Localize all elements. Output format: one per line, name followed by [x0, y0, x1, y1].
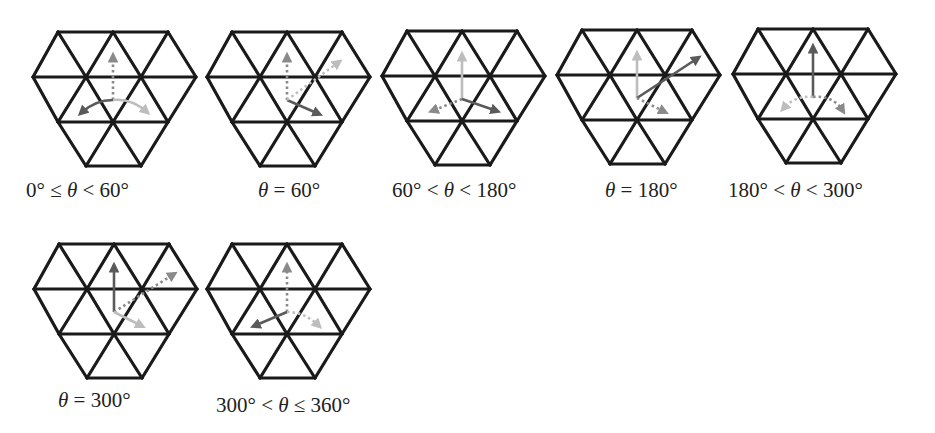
vector-arrow-icon	[637, 58, 698, 98]
figure-caption: θ = 300°	[58, 388, 131, 413]
triangle-grid	[557, 30, 727, 170]
triangle-grid	[34, 244, 204, 384]
vector-arrow-icon	[432, 99, 462, 111]
figure-caption: 180° < θ < 300°	[728, 178, 863, 203]
figure-caption: 300° < θ ≤ 360°	[216, 393, 351, 418]
figure-caption: 60° < θ < 180°	[392, 178, 516, 203]
triangle-grid	[33, 32, 203, 172]
triangle-grid	[382, 31, 552, 171]
figure-caption: 0° ≤ θ < 60°	[26, 178, 129, 203]
vector-arrow-icon	[462, 99, 497, 111]
triangle-grid	[207, 32, 377, 172]
vector-arrow-icon	[783, 97, 813, 109]
figure-caption: θ = 60°	[258, 178, 320, 203]
triangle-grid	[733, 29, 903, 169]
figure-caption: θ = 180°	[605, 178, 678, 203]
triangle-grid	[207, 244, 377, 384]
vector-arrow-icon	[113, 100, 147, 112]
